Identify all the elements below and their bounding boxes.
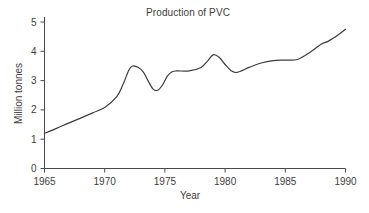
chart-container: Production of PVC Million tonnes Year 01…	[0, 0, 369, 213]
y-axis-tick-labels: 012345	[31, 17, 37, 175]
x-tick-label: 1980	[214, 176, 237, 187]
y-tick-label: 4	[31, 46, 37, 57]
x-tick-label: 1990	[334, 176, 357, 187]
y-tick-label: 0	[31, 163, 37, 174]
x-tick-label: 1970	[94, 176, 117, 187]
x-tick-label: 1975	[154, 176, 177, 187]
chart-plot-area: 012345 196519701975198019851990	[0, 0, 369, 213]
y-axis-ticks	[41, 22, 45, 169]
x-axis-ticks	[45, 169, 346, 173]
x-tick-label: 1985	[274, 176, 297, 187]
y-tick-label: 5	[31, 17, 37, 28]
y-tick-label: 2	[31, 104, 37, 115]
x-axis: 196519701975198019851990	[33, 169, 357, 187]
x-axis-tick-labels: 196519701975198019851990	[33, 176, 357, 187]
data-series-line	[45, 29, 346, 133]
y-tick-label: 1	[31, 134, 37, 145]
y-tick-label: 3	[31, 75, 37, 86]
y-axis: 012345	[31, 17, 45, 175]
x-tick-label: 1965	[33, 176, 56, 187]
